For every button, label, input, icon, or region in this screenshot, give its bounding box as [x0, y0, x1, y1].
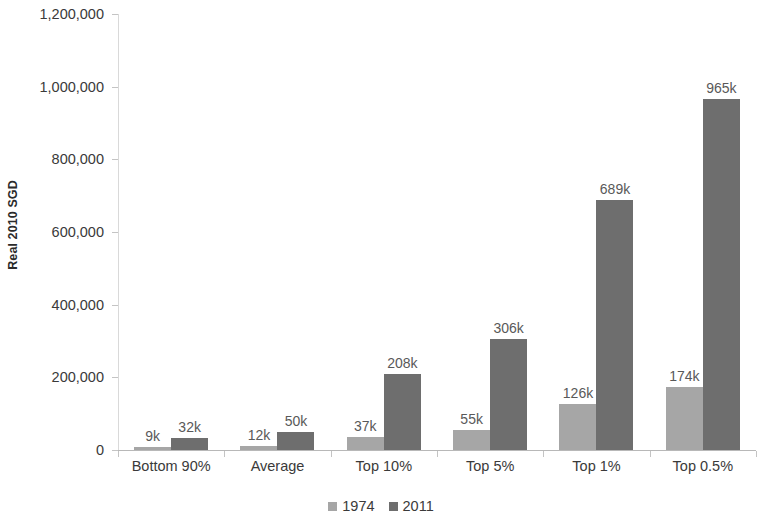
- bar-pair: 55k306k: [437, 14, 543, 450]
- bar-value-label: 689k: [600, 181, 630, 197]
- bar-group: 126k689k: [543, 14, 649, 450]
- x-axis-tick-mark: [224, 451, 225, 457]
- bar-value-label: 306k: [493, 320, 523, 336]
- legend-label: 1974: [342, 498, 374, 514]
- bar-value-label: 37k: [354, 418, 377, 434]
- bar-2011-top-0-5[interactable]: 965k: [703, 99, 740, 450]
- x-axis-tick-mark: [756, 451, 757, 457]
- x-axis-tick-mark: [650, 451, 651, 457]
- bar-value-label: 208k: [387, 355, 417, 371]
- legend-item-1974[interactable]: 1974: [328, 498, 374, 514]
- y-axis-tick-label: 1,000,000: [39, 79, 104, 95]
- bar-value-label: 12k: [248, 427, 271, 443]
- chart-legend: 19742011: [0, 498, 762, 514]
- y-axis-tick-label: 600,000: [52, 224, 104, 240]
- x-axis-tick-mark: [331, 451, 332, 457]
- bar-pair: 126k689k: [543, 14, 649, 450]
- legend-item-2011[interactable]: 2011: [389, 498, 434, 514]
- bar-value-label: 9k: [145, 428, 160, 444]
- x-axis-tick-mark: [118, 451, 119, 457]
- x-axis-category-label: Top 10%: [356, 458, 412, 474]
- y-axis-tick-labels: 0200,000400,000600,000800,0001,000,0001,…: [20, 0, 112, 460]
- bar-2011-top-1[interactable]: 689k: [596, 200, 633, 450]
- bar-value-label: 965k: [706, 80, 736, 96]
- bar-pair: 37k208k: [331, 14, 437, 450]
- y-axis-tick-label: 800,000: [52, 151, 104, 167]
- bar-group: 55k306k: [437, 14, 543, 450]
- bar-2011-bottom-90[interactable]: 32k: [171, 438, 208, 450]
- bar-1974-bottom-90[interactable]: 9k: [134, 447, 171, 450]
- bar-chart: Real 2010 SGD 0200,000400,000600,000800,…: [0, 0, 762, 524]
- bar-pair: 174k965k: [650, 14, 756, 450]
- bar-group: 9k32k: [118, 14, 224, 450]
- x-axis-category-labels: Bottom 90%AverageTop 10%Top 5%Top 1%Top …: [118, 458, 756, 484]
- bar-value-label: 126k: [563, 385, 593, 401]
- x-axis-category-label: Top 0.5%: [673, 458, 733, 474]
- bar-group: 174k965k: [650, 14, 756, 450]
- bar-1974-top-1[interactable]: 126k: [559, 404, 596, 450]
- y-axis-tick-label: 400,000: [52, 297, 104, 313]
- bar-pair: 12k50k: [224, 14, 330, 450]
- bar-1974-top-10[interactable]: 37k: [347, 437, 384, 450]
- bar-1974-top-0-5[interactable]: 174k: [666, 387, 703, 450]
- bars-layer: 9k32k12k50k37k208k55k306k126k689k174k965…: [118, 14, 756, 450]
- x-axis-tick-mark: [437, 451, 438, 457]
- y-axis-title-text: Real 2010 SGD: [6, 180, 20, 270]
- bar-2011-top-10[interactable]: 208k: [384, 374, 421, 450]
- legend-swatch-icon: [328, 502, 337, 511]
- bar-value-label: 32k: [178, 419, 201, 435]
- x-axis-category-label: Top 5%: [466, 458, 514, 474]
- bar-2011-average[interactable]: 50k: [277, 432, 314, 450]
- y-axis-tick-label: 0: [96, 442, 104, 458]
- bar-value-label: 50k: [285, 413, 308, 429]
- x-axis-category-label: Top 1%: [572, 458, 620, 474]
- bar-value-label: 55k: [460, 411, 483, 427]
- bar-1974-top-5[interactable]: 55k: [453, 430, 490, 450]
- bar-2011-top-5[interactable]: 306k: [490, 339, 527, 450]
- bar-group: 12k50k: [224, 14, 330, 450]
- bar-1974-average[interactable]: 12k: [240, 446, 277, 450]
- legend-swatch-icon: [389, 502, 398, 511]
- legend-label: 2011: [403, 498, 434, 514]
- x-axis-tick-mark: [543, 451, 544, 457]
- x-axis-category-label: Average: [251, 458, 305, 474]
- bar-value-label: 174k: [669, 368, 699, 384]
- bar-pair: 9k32k: [118, 14, 224, 450]
- x-axis-category-label: Bottom 90%: [132, 458, 211, 474]
- y-axis-tick-label: 200,000: [52, 369, 104, 385]
- bar-group: 37k208k: [331, 14, 437, 450]
- y-axis-tick-label: 1,200,000: [39, 6, 104, 22]
